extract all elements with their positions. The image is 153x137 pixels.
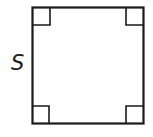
right-angle-marker-bottom-right — [126, 106, 143, 123]
right-angle-marker-top-right — [126, 8, 143, 25]
right-angle-marker-bottom-left — [33, 106, 49, 123]
side-label: S — [11, 51, 24, 75]
square-diagram: S — [0, 0, 153, 137]
right-angle-marker-top-left — [33, 8, 50, 25]
